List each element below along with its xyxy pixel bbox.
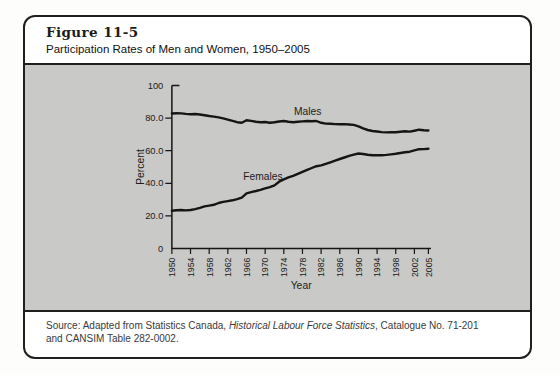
y-axis-title: Percent [135,149,146,185]
series-label-males: Males [294,107,321,118]
x-axis-tick-label: 2002 [410,257,420,277]
x-axis-tick-label: 1978 [298,257,308,277]
x-axis-title: Year [291,280,312,291]
x-axis-tick-label: 1958 [204,257,214,277]
x-axis-tick-label: 1990 [354,257,364,277]
x-axis-tick-label: 1954 [186,257,196,277]
series-label-females: Females [243,171,282,182]
y-axis-tick-label: 100 [148,81,164,91]
figure-header: Figure 11-5 Participation Rates of Men a… [25,17,530,63]
x-axis-tick-label: 1962 [223,257,233,277]
x-axis-tick-label: 1950 [167,257,177,277]
figure-box: Figure 11-5 Participation Rates of Men a… [23,15,532,359]
y-axis-tick-label: 80.0 [145,113,163,123]
page: Figure 11-5 Participation Rates of Men a… [0,0,560,375]
y-axis-tick-label: 60.0 [145,146,163,156]
chart-area: 020.040.060.080.010019501954195819621966… [25,63,530,312]
x-axis-tick-label: 1966 [242,257,252,277]
source-note: Source: Adapted from Statistics Canada, … [25,312,530,357]
x-axis-tick-label: 1974 [279,257,289,277]
x-axis-tick-label: 2005 [424,257,434,277]
y-axis-tick-label: 40.0 [145,179,163,189]
source-publication: Historical Labour Force Statistics [229,320,375,331]
y-axis-tick-label: 0 [158,244,163,254]
x-axis-tick-label: 1970 [260,257,270,277]
figure-number: Figure 11-5 [46,24,520,40]
x-axis-tick-label: 1986 [335,257,345,277]
source-line-2: and CANSIM Table 282-0002. [46,333,516,346]
source-prefix: Source: Adapted from Statistics Canada, [46,320,229,331]
y-axis-tick-label: 20.0 [145,211,163,221]
x-axis-tick-label: 1994 [372,257,382,277]
x-axis-tick-label: 1982 [316,257,326,277]
source-suffix: , Catalogue No. 71-201 [375,320,478,331]
participation-rates-chart: 020.040.060.080.010019501954195819621966… [25,65,530,310]
figure-title: Participation Rates of Men and Women, 19… [46,43,520,55]
series-line-females [172,149,429,211]
source-line-1: Source: Adapted from Statistics Canada, … [46,320,516,333]
x-axis-tick-label: 1998 [391,257,401,277]
